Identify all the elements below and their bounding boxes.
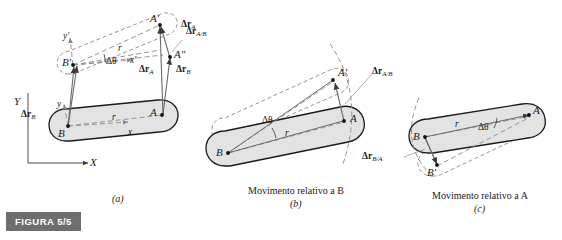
panel-c-label-delta-theta: Δθ: [478, 122, 489, 132]
panel-b-dr-AB-symbol-top: Δr: [186, 26, 196, 36]
panel-a-dr-B-subscript: B: [186, 68, 190, 75]
panel-a-vector-label-dr-B: ΔrB: [176, 64, 190, 75]
panel-a-dr-B-left-symbol: Δr: [21, 109, 31, 119]
panel-a-point-label-B-prime: B': [62, 56, 71, 68]
panel-a-axis-label-y-prime: y': [63, 31, 69, 41]
panel-a-delta-theta-arc: [104, 54, 105, 62]
panel-c-graphics: [404, 98, 545, 176]
panel-a-graphics: [28, 13, 182, 163]
panel-a-label-r-fixed: r: [112, 112, 116, 122]
panel-a-axis-label-X: X: [90, 156, 97, 168]
panel-b-dr-AB-symbol: Δr: [372, 66, 382, 76]
panel-c-caption: Movimento relativo a A: [400, 190, 560, 201]
panel-c-point-label-B: B: [413, 130, 420, 142]
panel-a-dr-B-left-subscript: B: [31, 113, 35, 120]
panel-c-dr-BA-symbol: Δr: [362, 151, 372, 161]
panel-b-point-label-A-prime: A': [338, 66, 347, 78]
panel-b-point-label-B: B: [216, 146, 223, 158]
panel-c-point-label-A: A: [533, 104, 540, 116]
panel-b-vector-label-dr-AB: ΔrA/B: [372, 66, 392, 77]
panel-c-point-label-B-prime: B': [427, 166, 436, 178]
panel-a-dr-A-subscript: A: [149, 68, 153, 75]
panel-c-leader-drba: [404, 149, 425, 157]
panel-a-axis-label-x-prime: x': [130, 55, 136, 65]
panel-a-rotated-axes: [70, 38, 132, 65]
panel-a-dr-A-symbol: Δr: [139, 64, 149, 74]
panel-a-axis-label-y: y: [57, 99, 61, 109]
panel-b-label-delta-theta: Δθ: [262, 115, 273, 125]
panel-a-label-delta-theta: Δθ: [106, 56, 117, 66]
panel-a-vector-label-dr-B-left: ΔrB: [21, 109, 35, 120]
panel-b-point-label-A: A: [350, 112, 357, 124]
panel-c-vector-label-dr-BA: ΔrB/A: [362, 151, 382, 162]
panel-b-id: (b): [290, 198, 302, 209]
panel-a-point-label-A: A: [150, 106, 157, 118]
panel-b-dr-AB-subscript-top: A/B: [196, 30, 206, 37]
panel-a-point-label-B: B: [58, 127, 65, 139]
panel-c-label-r: r: [455, 119, 459, 129]
panel-b-vector-label-dr-AB-top: ΔrA/B: [186, 26, 206, 37]
panel-a-point-label-A-double-prime: A": [174, 48, 185, 60]
panel-b-graphics: [206, 44, 372, 166]
panel-b-dr-AB-subscript: A/B: [382, 70, 392, 77]
panel-a-label-r-prime: r: [118, 43, 122, 53]
panel-b-label-r: r: [285, 128, 289, 138]
panel-a-id: (a): [112, 193, 124, 204]
panel-a-vector-label-dr-A: ΔrA: [139, 64, 153, 75]
panel-c-dr-BA-subscript: B/A: [372, 155, 382, 162]
figure-container: Y X y' x' y x r r Δθ A A' A" B B' ΔrA Δr…: [0, 0, 562, 240]
figure-number-badge: FIGURA 5/5: [6, 212, 81, 231]
panel-a-point-label-A-prime: A': [150, 12, 159, 24]
panel-a-axis-label-Y: Y: [14, 95, 20, 107]
panel-c-id: (c): [474, 203, 485, 214]
panel-b-path-arc: [330, 44, 352, 164]
panel-a-axis-label-x: x: [128, 127, 132, 137]
panel-b-caption: Movimento relativo a B: [216, 185, 376, 196]
panel-a-dr-B-symbol: Δr: [176, 64, 186, 74]
